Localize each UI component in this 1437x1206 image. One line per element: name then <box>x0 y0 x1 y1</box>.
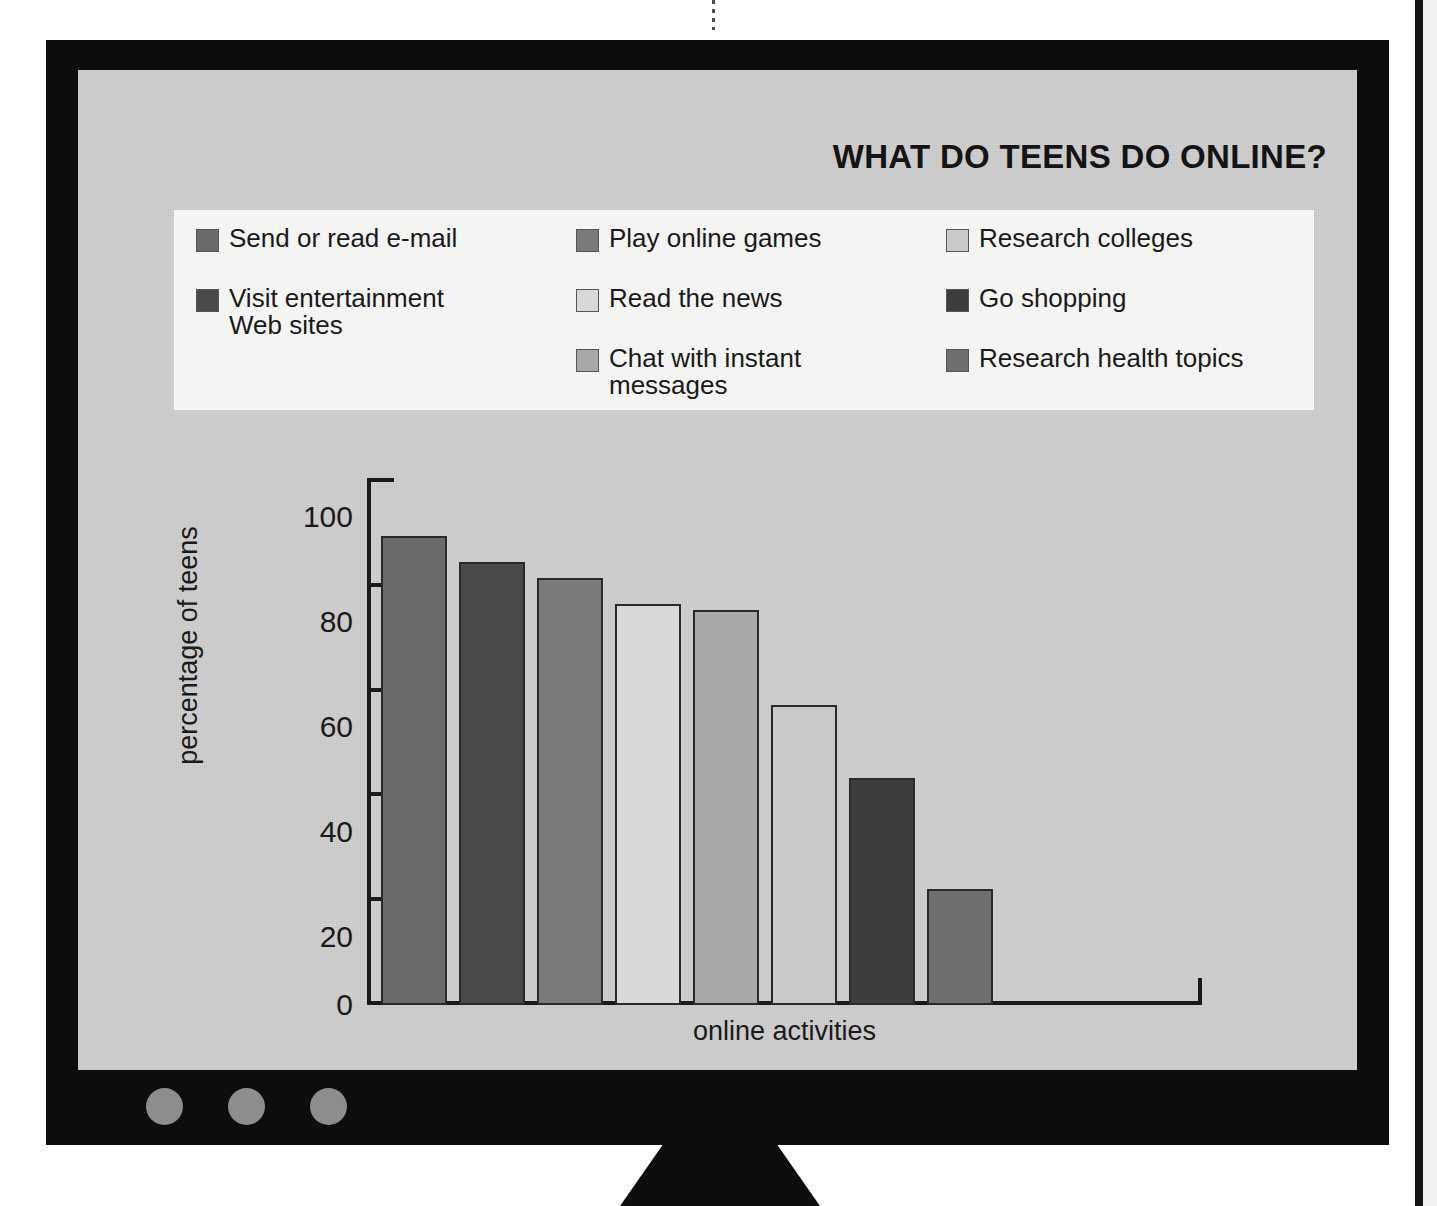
bar-5 <box>693 610 759 1005</box>
bar-3 <box>537 578 603 1005</box>
bar-7 <box>849 778 915 1005</box>
y-tick-20: 20 <box>263 920 353 954</box>
monitor-frame: WHAT DO TEENS DO ONLINE? Send or read e-… <box>46 40 1389 1145</box>
bar-1 <box>381 536 447 1005</box>
monitor-screen: WHAT DO TEENS DO ONLINE? Send or read e-… <box>78 70 1357 1070</box>
y-tick-80: 80 <box>263 605 353 639</box>
x-axis-label: online activities <box>367 1016 1202 1047</box>
bar-6 <box>771 705 837 1005</box>
bar-2 <box>459 562 525 1005</box>
page-right-edge <box>1415 0 1437 1206</box>
select-dot-icon[interactable] <box>310 1088 347 1125</box>
power-dot-icon[interactable] <box>146 1088 183 1125</box>
y-tick-60: 60 <box>263 710 353 744</box>
y-axis-label: percentage of teens <box>173 496 204 796</box>
bar-8 <box>927 889 993 1005</box>
chart-plot-area: percentage of teens 100 80 60 40 20 0 on… <box>78 70 1357 1070</box>
page-crop-tick <box>712 0 715 30</box>
y-tick-40: 40 <box>263 815 353 849</box>
bar-4 <box>615 604 681 1005</box>
monitor-stand <box>620 1143 820 1206</box>
monitor-bezel-controls <box>46 1070 1389 1145</box>
y-tick-0: 0 <box>263 988 353 1022</box>
bar-series <box>371 478 1202 1005</box>
menu-dot-icon[interactable] <box>228 1088 265 1125</box>
y-tick-100: 100 <box>263 500 353 534</box>
